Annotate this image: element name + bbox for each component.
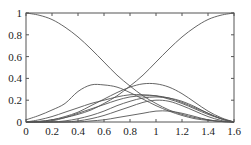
x-tick-label: 1.4	[201, 125, 215, 137]
x-tick-label: 1	[153, 125, 159, 137]
x-tick-label: 1.2	[175, 125, 189, 137]
x-tick-label: 0.8	[123, 125, 137, 137]
x-tick-label: 0.2	[45, 125, 59, 137]
curve-increasing	[26, 13, 234, 122]
y-tick-label: 0.4	[8, 72, 22, 84]
curve-bump-early	[26, 84, 234, 122]
x-axis-ticks: 00.20.40.60.811.21.41.6	[23, 13, 241, 137]
curve-decreasing	[26, 13, 234, 122]
y-tick-label: 0	[17, 116, 23, 128]
chart-curves	[26, 13, 234, 122]
x-tick-label: 0	[23, 125, 29, 137]
curve-bump-late	[26, 83, 234, 122]
plot-frame	[26, 13, 234, 122]
line-chart: 00.20.40.60.811.21.41.6 00.20.40.60.81	[0, 0, 251, 145]
y-tick-label: 0.6	[8, 51, 22, 63]
x-tick-label: 0.4	[71, 125, 85, 137]
x-tick-label: 0.6	[97, 125, 111, 137]
y-tick-label: 1	[17, 7, 23, 19]
curve-mid-2	[26, 96, 234, 122]
y-tick-label: 0.2	[8, 94, 22, 106]
x-tick-label: 1.6	[227, 125, 241, 137]
y-tick-label: 0.8	[8, 29, 22, 41]
